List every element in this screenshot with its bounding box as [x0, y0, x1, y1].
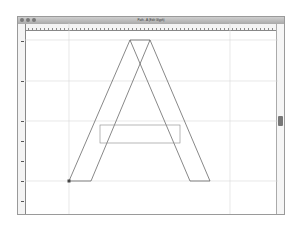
- grid: [25, 23, 278, 214]
- glyph-outline[interactable]: [69, 40, 210, 181]
- selected-point-handle[interactable]: [68, 180, 71, 183]
- crossbar-rect[interactable]: [100, 125, 180, 143]
- glyph-canvas[interactable]: [0, 0, 296, 225]
